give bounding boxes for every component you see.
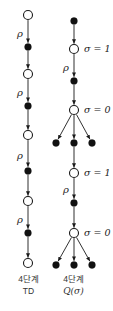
edge-arrow <box>58 114 72 139</box>
action-node <box>25 103 32 110</box>
action-node <box>71 140 78 147</box>
state-node <box>24 259 33 268</box>
q-sigma-caption-steps: 4단계 <box>45 273 102 285</box>
action-node <box>71 262 78 269</box>
state-node <box>70 45 79 54</box>
q-sigma-caption-name: Q(σ) <box>45 285 102 297</box>
state-node <box>24 70 33 79</box>
edge-arrow <box>77 237 90 261</box>
importance-ratio-label: ρ <box>62 184 69 195</box>
diagram-canvas: ρρρρ ρρσ = 1σ = 0σ = 1σ = 0 <box>0 0 113 311</box>
td-diagram: ρρρρ <box>16 11 32 268</box>
state-node <box>24 197 33 206</box>
action-node <box>71 18 78 25</box>
state-node <box>70 229 79 238</box>
q-sigma-diagram: ρρσ = 1σ = 0σ = 1σ = 0 <box>53 18 111 269</box>
sigma-label: σ = 0 <box>84 227 111 238</box>
importance-ratio-label: ρ <box>16 214 23 225</box>
state-node <box>70 106 79 115</box>
action-node <box>71 78 78 85</box>
state-node <box>70 169 79 178</box>
action-node <box>25 44 32 51</box>
action-node <box>25 168 32 175</box>
q-sigma-caption: 4단계 Q(σ) <box>45 273 102 297</box>
sigma-label: σ = 1 <box>84 43 111 54</box>
edge-arrow <box>76 114 90 139</box>
importance-ratio-label: ρ <box>16 87 23 98</box>
importance-ratio-label: ρ <box>16 150 23 161</box>
importance-ratio-label: ρ <box>16 28 23 39</box>
action-node <box>25 230 32 237</box>
sigma-label: σ = 0 <box>84 104 111 115</box>
action-node <box>89 262 96 269</box>
backup-diagrams: ρρρρ ρρσ = 1σ = 0σ = 1σ = 0 4단계 TD 4단계 Q… <box>0 0 113 311</box>
edge-arrow <box>58 237 71 261</box>
state-node <box>24 131 33 140</box>
action-node <box>89 140 96 147</box>
importance-ratio-label: ρ <box>62 62 69 73</box>
state-node <box>24 11 33 20</box>
action-node <box>71 200 78 207</box>
sigma-label: σ = 1 <box>84 167 111 178</box>
action-node <box>53 262 60 269</box>
action-node <box>53 140 60 147</box>
